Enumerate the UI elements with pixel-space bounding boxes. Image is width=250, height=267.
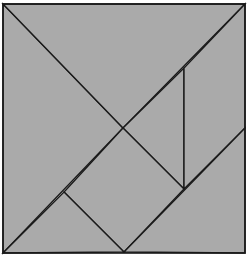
tangram-pieces	[3, 4, 245, 253]
tangram-diagram	[0, 0, 250, 267]
